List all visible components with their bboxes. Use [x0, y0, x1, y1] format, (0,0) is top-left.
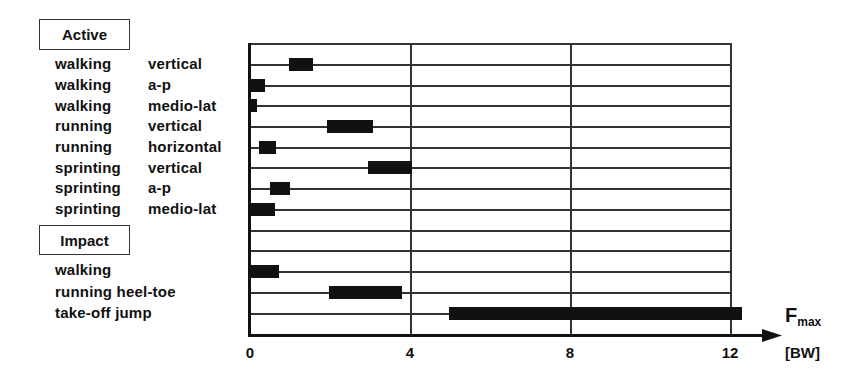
frame-top [249, 43, 730, 45]
row-label-activity: running heel-toe [55, 284, 176, 300]
impact-header-label: Impact [60, 232, 108, 249]
row-label-direction: a-p [148, 180, 171, 196]
row-label-activity: running [55, 118, 112, 134]
bar-sprinting-ap [270, 182, 290, 195]
row-gridline [249, 230, 730, 232]
x-tick-8: 8 [566, 344, 574, 361]
row-label-activity: running [55, 139, 112, 155]
gridline-x-4 [410, 43, 412, 335]
row-gridline [249, 209, 730, 211]
row-label-activity: sprinting [55, 180, 121, 196]
bar-walking-ap [249, 79, 265, 92]
bar-sprinting-mediolat [249, 203, 275, 216]
row-gridline [249, 105, 730, 107]
bar-impact-walking [249, 265, 279, 278]
row-label-activity: sprinting [55, 160, 121, 176]
row-gridline [249, 292, 730, 294]
gridline-x-12 [730, 43, 732, 335]
x-axis-title: Fmax [785, 304, 821, 329]
row-label-direction: medio-lat [148, 98, 216, 114]
row-gridline [249, 64, 730, 66]
row-label-activity: walking [55, 262, 111, 278]
row-label-activity: walking [55, 56, 111, 72]
row-label-direction: horizontal [148, 139, 222, 155]
active-header-label: Active [62, 26, 107, 43]
row-gridline [249, 188, 730, 190]
x-axis-unit: [BW] [785, 344, 820, 361]
row-gridline [249, 271, 730, 273]
impact-group-header: Impact [39, 225, 130, 255]
gridline-x-8 [570, 43, 572, 335]
active-group-header: Active [39, 19, 130, 50]
x-axis-arrow-icon [762, 328, 782, 343]
x-tick-0: 0 [246, 344, 254, 361]
bar-impact-takeoff-jump [449, 307, 742, 320]
row-label-direction: a-p [148, 77, 171, 93]
row-label-direction: vertical [148, 56, 202, 72]
x-tick-12: 12 [722, 344, 739, 361]
row-gridline [249, 85, 730, 87]
row-label-direction: vertical [148, 118, 202, 134]
row-label-activity: sprinting [55, 201, 121, 217]
bar-walking-vertical [289, 58, 313, 71]
fmax-symbol: F [785, 304, 797, 326]
row-label-activity: walking [55, 98, 111, 114]
row-label-activity: walking [55, 77, 111, 93]
x-axis [248, 334, 766, 337]
x-tick-4: 4 [406, 344, 414, 361]
row-label-direction: vertical [148, 160, 202, 176]
bar-running-vertical [327, 120, 373, 133]
bar-impact-running-heel-toe [329, 286, 402, 299]
row-gridline [249, 126, 730, 128]
row-gridline [249, 167, 730, 169]
row-label-direction: medio-lat [148, 201, 216, 217]
fmax-subscript: max [797, 315, 821, 329]
bar-sprinting-vertical [368, 161, 412, 174]
row-gridline [249, 250, 730, 252]
bar-walking-mediolat [249, 99, 257, 112]
row-label-activity: take-off jump [55, 305, 152, 321]
row-gridline [249, 147, 730, 149]
bar-running-horizontal [259, 141, 276, 154]
